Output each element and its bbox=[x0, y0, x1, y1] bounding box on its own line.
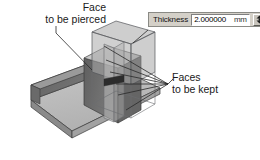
annotation-kept-line1: Faces bbox=[172, 72, 218, 84]
thickness-label: Thickness bbox=[151, 15, 191, 24]
thickness-input[interactable]: 2.000000 mm bbox=[191, 14, 250, 26]
thickness-dialog[interactable]: Thickness 2.000000 mm bbox=[148, 12, 260, 27]
thickness-unit: mm bbox=[234, 15, 247, 24]
annotation-kept-line2: to be kept bbox=[172, 84, 218, 96]
thickness-value: 2.000000 bbox=[194, 15, 226, 24]
annotation-face-to-be-pierced: Face to be pierced bbox=[18, 2, 106, 25]
spinner-up-down-icon[interactable] bbox=[253, 14, 260, 26]
annotation-pierced-line1: Face bbox=[18, 2, 106, 14]
annotation-faces-to-be-kept: Faces to be kept bbox=[172, 72, 218, 95]
cad-screenshot: Face to be pierced Faces to be kept Thic… bbox=[0, 0, 260, 160]
annotation-pierced-line2: to be pierced bbox=[18, 14, 106, 26]
